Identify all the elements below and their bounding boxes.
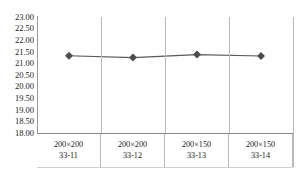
x-axis-category-cell: 200×20033-12 [101,134,165,167]
x-axis-category-labels: 200×20033-11200×20033-12200×15033-13200×… [37,134,293,167]
y-axis-tick-label: 20.50 [0,71,34,80]
y-axis-tick-label: 22.00 [0,36,34,45]
label-table-bottom-rule [37,167,293,168]
plot-area [37,17,293,133]
data-point-marker [257,52,265,60]
data-point-marker [129,54,137,62]
category-label-line1: 200×150 [182,140,211,151]
x-axis-category-cell: 200×15033-13 [165,134,229,167]
category-label-line1: 200×150 [246,140,275,151]
y-axis-tick-label: 19.00 [0,106,34,115]
category-label-line2: 33-11 [59,151,78,162]
vertical-gridline [229,17,230,133]
category-label-line1: 200×200 [54,140,83,151]
chart-title [0,0,304,3]
data-point-marker [193,51,201,59]
y-axis-tick-label: 21.00 [0,59,34,68]
x-axis-category-cell: 200×20033-11 [37,134,101,167]
y-axis-tick-label: 21.50 [0,48,34,57]
category-label-line2: 33-13 [187,151,206,162]
x-axis-category-cell: 200×15033-14 [229,134,293,167]
y-axis-tick-labels: 23.0022.5022.0021.5021.0020.5020.0019.50… [0,13,34,134]
vertical-gridline [165,17,166,133]
plot-right-gridline [293,17,294,167]
vertical-gridline [101,17,102,133]
y-axis-tick-label: 23.00 [0,13,34,22]
y-axis-tick-label: 22.50 [0,24,34,33]
category-label-line2: 33-14 [251,151,270,162]
y-axis-tick-label: 18.50 [0,117,34,126]
chart-container: 23.0022.5022.0021.5021.0020.5020.0019.50… [0,0,304,174]
y-axis-tick-label: 20.00 [0,82,34,91]
category-label-line1: 200×200 [118,140,147,151]
category-label-line2: 33-12 [123,151,142,162]
data-point-marker [65,52,73,60]
y-axis-tick-label: 18.00 [0,129,34,138]
y-axis-tick-label: 19.50 [0,94,34,103]
